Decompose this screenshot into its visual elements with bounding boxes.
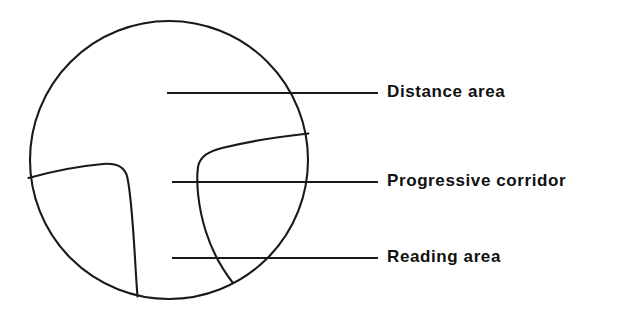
label-distance-area: Distance area	[387, 83, 505, 100]
left-blend-zone-boundary	[29, 164, 138, 297]
lens-diagram-svg	[0, 0, 638, 312]
right-blend-zone-boundary	[197, 134, 308, 284]
label-reading-area: Reading area	[387, 248, 501, 265]
lens-diagram-canvas: Distance area Progressive corridor Readi…	[0, 0, 638, 312]
label-progressive-corridor: Progressive corridor	[387, 172, 566, 189]
